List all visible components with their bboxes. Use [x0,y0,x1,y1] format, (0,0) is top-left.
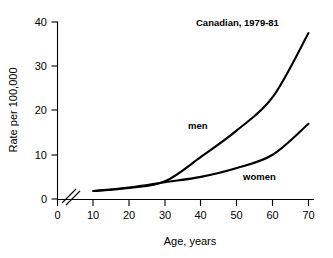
y-tick-label-40: 40 [35,16,47,28]
line-chart: 40 30 20 10 0 0 10 20 30 40 50 60 70 [0,0,333,258]
x-tick-label-70: 70 [302,209,314,221]
x-axis-title: Age, years [164,235,217,247]
y-axis-title: Rate per 100,000 [7,67,19,152]
series-label-women: women [242,171,276,182]
y-tick-label-20: 20 [35,104,47,116]
x-tick-label-0: 0 [54,209,60,221]
x-tick-label-40: 40 [194,209,206,221]
chart-figure: 40 30 20 10 0 0 10 20 30 40 50 60 70 [0,0,333,258]
y-tick-label-10: 10 [35,149,47,161]
y-tick-label-0: 0 [41,193,47,205]
x-tick-label-30: 30 [159,209,171,221]
series-label-men: men [188,120,208,131]
x-tick-label-20: 20 [123,209,135,221]
x-tick-label-50: 50 [230,209,242,221]
x-tick-label-60: 60 [266,209,278,221]
x-tick-label-10: 10 [87,209,99,221]
chart-title: Canadian, 1979-81 [196,17,280,28]
y-tick-label-30: 30 [35,60,47,72]
